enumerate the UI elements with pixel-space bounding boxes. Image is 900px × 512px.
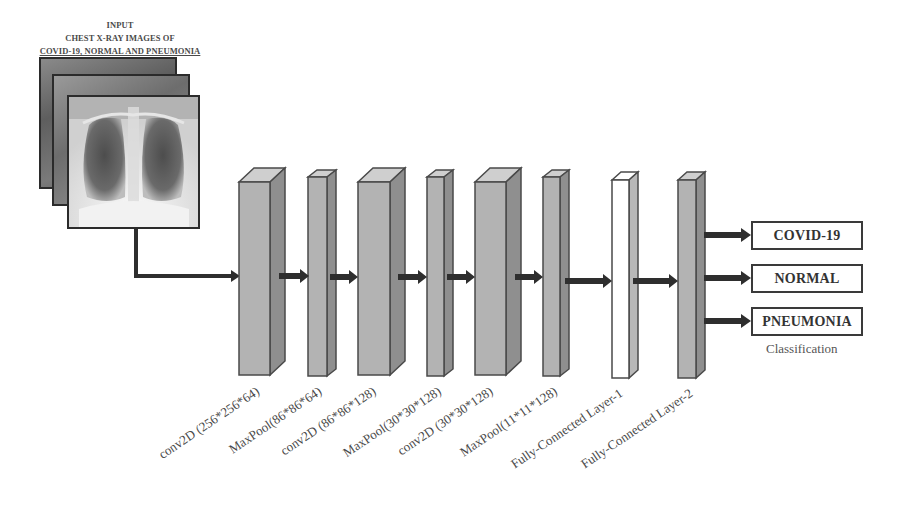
layer-block-maxpool-3 [543,170,569,376]
arrow-fc2-covid [704,228,751,242]
layer-block-conv2d-1 [239,168,285,375]
arrow-fc1-fc2 [633,274,678,288]
layer-block-maxpool-2 [427,170,453,376]
layer-block-maxpool-1 [308,170,336,376]
classification-caption: Classification [766,341,838,357]
cnn-architecture-diagram [0,0,900,512]
layer-block-conv2d-2 [358,168,405,375]
arrow-fc2-normal [704,271,751,285]
layer-block-fully-connected-2 [678,172,705,378]
arrow-fc2-pneumonia [704,314,751,328]
output-class-pneumonia: PNEUMONIA [751,307,863,336]
arrow-6-fc1 [565,274,612,288]
layer-block-conv2d-3 [475,168,521,375]
output-class-covid19: COVID-19 [751,221,863,250]
input-connector-arrow [136,229,240,282]
layer-block-fully-connected-1 [612,172,638,378]
output-class-normal: NORMAL [751,264,863,293]
